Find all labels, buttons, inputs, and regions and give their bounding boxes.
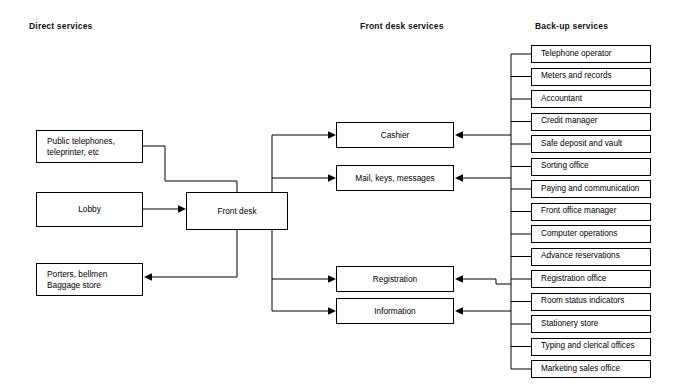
arrowhead-front-desk-to-mail bbox=[328, 174, 336, 181]
arrowhead-lobby-to-front-desk bbox=[178, 205, 186, 212]
wire-front-desk-to-information bbox=[272, 230, 334, 311]
arrowhead-backup-to-registration bbox=[455, 275, 463, 282]
column-header-back-up-services: Back-up services bbox=[535, 21, 608, 31]
node-front-office-manager[interactable]: Front office manager bbox=[531, 203, 651, 221]
wire-front-desk-to-porters bbox=[152, 230, 237, 277]
node-cashier[interactable]: Cashier bbox=[336, 122, 454, 148]
organisation-chart: Direct services Front desk services Back… bbox=[0, 0, 685, 391]
arrowhead-backup-to-cashier bbox=[455, 131, 463, 138]
node-stationery-store[interactable]: Stationery store bbox=[531, 315, 651, 333]
node-registration[interactable]: Registration bbox=[336, 266, 454, 292]
node-credit-manager[interactable]: Credit manager bbox=[531, 113, 651, 131]
node-marketing-sales-office[interactable]: Marketing sales office bbox=[531, 360, 651, 378]
arrowhead-front-desk-to-registration bbox=[328, 275, 336, 282]
node-mail-keys-messages[interactable]: Mail, keys, messages bbox=[336, 165, 454, 191]
node-safe-deposit-and-vault[interactable]: Safe deposit and vault bbox=[531, 135, 651, 153]
node-registration-office[interactable]: Registration office bbox=[531, 270, 651, 288]
arrowhead-backup-to-information bbox=[455, 307, 463, 314]
column-header-front-desk-services: Front desk services bbox=[360, 21, 444, 31]
wire-public-telephones-to-front-desk bbox=[143, 146, 237, 192]
wire-backup-to-registration bbox=[457, 279, 511, 284]
node-typing-and-clerical-offices[interactable]: Typing and clerical offices bbox=[531, 338, 651, 356]
column-header-direct-services: Direct services bbox=[29, 21, 93, 31]
node-advance-reservations[interactable]: Advance reservations bbox=[531, 248, 651, 266]
node-telephone-operator[interactable]: Telephone operator bbox=[531, 45, 651, 63]
wire-front-desk-to-cashier bbox=[272, 135, 334, 192]
node-room-status-indicators[interactable]: Room status indicators bbox=[531, 293, 651, 311]
node-paying-and-communication[interactable]: Paying and communication bbox=[531, 180, 651, 198]
node-accountant[interactable]: Accountant bbox=[531, 90, 651, 108]
node-porters-bellmen[interactable]: Porters, bellmen Baggage store bbox=[36, 263, 143, 296]
arrowhead-backup-to-mail bbox=[455, 174, 463, 181]
node-computer-operations[interactable]: Computer operations bbox=[531, 225, 651, 243]
arrowhead-front-desk-to-information bbox=[328, 307, 336, 314]
node-lobby[interactable]: Lobby bbox=[36, 192, 143, 227]
arrowhead-front-desk-to-cashier bbox=[328, 131, 336, 138]
node-public-telephones[interactable]: Public telephones, teleprinter, etc bbox=[36, 130, 143, 163]
node-information[interactable]: Information bbox=[336, 298, 454, 324]
arrowhead-front-desk-to-porters bbox=[144, 273, 152, 280]
node-front-desk[interactable]: Front desk bbox=[186, 192, 288, 230]
node-sorting-office[interactable]: Sorting office bbox=[531, 158, 651, 176]
node-meters-and-records[interactable]: Meters and records bbox=[531, 68, 651, 86]
